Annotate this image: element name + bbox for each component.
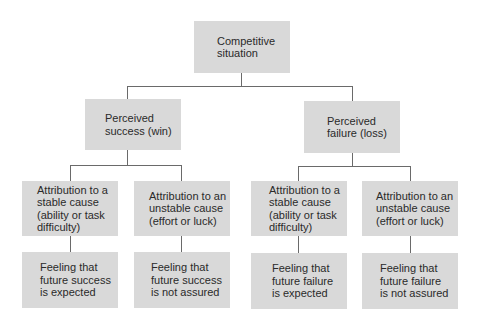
connector-level2-horizontal bbox=[127, 86, 353, 87]
node-label: Attribution to an unstable cause (effort… bbox=[149, 190, 230, 228]
connector-l3-1-down bbox=[70, 236, 71, 252]
node-success-unstable-cause: Attribution to an unstable cause (effort… bbox=[134, 181, 230, 236]
connector-to-failure bbox=[352, 86, 353, 101]
connector-success-horizontal bbox=[70, 165, 182, 166]
connector-l3-2-down bbox=[181, 236, 182, 252]
node-label: Attribution to a stable cause (ability o… bbox=[269, 184, 347, 234]
node-label: Attribution to a stable cause (ability o… bbox=[37, 184, 118, 234]
connector-to-failure-stable bbox=[298, 166, 299, 181]
node-label: Attribution to an unstable cause (effort… bbox=[376, 190, 458, 228]
connector-to-success bbox=[127, 86, 128, 99]
node-label: Feeling that future failure is expected bbox=[272, 262, 347, 300]
node-competitive-situation: Competitive situation bbox=[194, 21, 290, 73]
node-label: Feeling that future failure is not assur… bbox=[380, 262, 458, 300]
node-label: Feeling that future success is not assur… bbox=[151, 261, 230, 299]
node-success-stable-cause: Attribution to a stable cause (ability o… bbox=[22, 181, 118, 236]
node-perceived-failure: Perceived failure (loss) bbox=[304, 101, 400, 153]
node-failure-stable-cause: Attribution to a stable cause (ability o… bbox=[251, 181, 347, 236]
node-label: Perceived success (win) bbox=[105, 112, 181, 137]
node-future-failure-not-assured: Feeling that future failure is not assur… bbox=[362, 253, 458, 309]
connector-root-down bbox=[241, 73, 242, 86]
node-label: Perceived failure (loss) bbox=[327, 115, 400, 140]
connector-to-failure-unstable bbox=[410, 166, 411, 181]
node-future-failure-expected: Feeling that future failure is expected bbox=[251, 253, 347, 309]
node-perceived-success: Perceived success (win) bbox=[85, 99, 181, 150]
connector-success-down bbox=[127, 150, 128, 165]
connector-to-success-stable bbox=[70, 165, 71, 181]
node-failure-unstable-cause: Attribution to an unstable cause (effort… bbox=[362, 181, 458, 236]
node-future-success-expected: Feeling that future success is expected bbox=[22, 252, 118, 308]
node-label: Competitive situation bbox=[217, 35, 290, 60]
connector-l3-3-down bbox=[298, 236, 299, 253]
connector-to-success-unstable bbox=[181, 165, 182, 181]
connector-failure-horizontal bbox=[298, 166, 411, 167]
connector-failure-down bbox=[352, 153, 353, 166]
node-label: Feeling that future success is expected bbox=[40, 261, 118, 299]
node-future-success-not-assured: Feeling that future success is not assur… bbox=[134, 252, 230, 308]
connector-l3-4-down bbox=[410, 236, 411, 253]
